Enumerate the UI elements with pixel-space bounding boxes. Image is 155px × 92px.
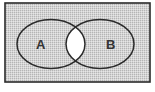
set-b-label: B <box>106 37 115 52</box>
set-a-label: A <box>36 37 46 52</box>
venn-diagram: A B <box>0 0 155 92</box>
